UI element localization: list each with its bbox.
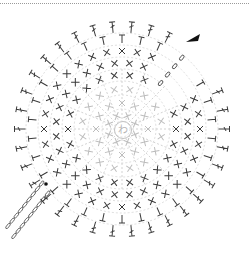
stitch-sc <box>56 103 64 111</box>
chain-loop-stitch <box>19 222 25 229</box>
chain-loop-stitch <box>36 201 42 208</box>
stitch-dc <box>71 31 81 44</box>
stitch-hdc <box>81 206 90 216</box>
stitch-sc <box>131 130 139 138</box>
join-dot-icon <box>44 182 48 186</box>
stitch-hdc <box>154 206 163 216</box>
stitch-sc <box>82 166 90 174</box>
stitch-hdc <box>137 212 145 221</box>
stitch-sc <box>66 140 73 147</box>
stitch-sc <box>53 133 60 140</box>
stitch-hdc <box>39 169 49 178</box>
stitch-dc <box>191 192 203 204</box>
stitch-dc <box>128 225 135 237</box>
stitch-sc <box>83 69 91 77</box>
stitch-dc <box>146 25 155 37</box>
stitch-sc <box>183 168 191 176</box>
stitch-sc <box>174 160 182 168</box>
stitch-sc <box>134 202 141 209</box>
stitch-hdc <box>203 97 212 105</box>
stitch-sc <box>173 180 181 188</box>
stitch-sc <box>111 179 118 186</box>
stitch-sc <box>140 158 148 166</box>
stitch-sc <box>103 49 110 56</box>
stitch-hdc <box>32 153 41 161</box>
stitch-sc <box>72 96 80 104</box>
stitch-sc <box>46 95 54 103</box>
stitch-hdc <box>195 79 205 88</box>
stitch-sc <box>153 166 161 174</box>
chain-loop-stitch <box>11 233 17 240</box>
stitch-dc <box>21 87 33 97</box>
magic-ring-symbol: わ <box>114 121 132 139</box>
stitch-dc <box>162 214 172 227</box>
stitch-dc <box>16 106 28 114</box>
stitch-sc <box>72 154 80 162</box>
stitch-hdc <box>64 51 74 61</box>
stitch-sc <box>180 103 188 111</box>
stitch-sc <box>96 174 104 182</box>
stitch-dc <box>21 161 33 171</box>
stitch-hdc <box>64 197 74 207</box>
stitch-hdc <box>28 116 37 123</box>
stitch-sc <box>195 110 202 117</box>
stitch-hdc <box>207 116 216 123</box>
chain-stitch <box>179 54 185 61</box>
stitch-dc <box>41 54 53 66</box>
stitch-sc <box>163 154 171 162</box>
chain-loop-stitch <box>18 207 24 214</box>
stitch-hdc <box>28 135 37 142</box>
stitch-hdc <box>154 42 163 52</box>
stitch-sc <box>105 120 113 128</box>
stitch-sc <box>197 126 203 132</box>
stitch-sc <box>184 133 191 140</box>
stitch-sc <box>66 110 73 117</box>
stitch-dc <box>15 126 26 132</box>
stitch-sc <box>131 120 139 128</box>
stitch-dc <box>216 144 228 152</box>
stitch-hdc <box>203 153 212 161</box>
stitch-sc <box>190 155 198 163</box>
start-arrow-icon <box>186 34 200 42</box>
stitch-sc <box>111 72 118 79</box>
stitch-sc <box>53 82 61 90</box>
chain-loop-stitch <box>26 196 32 203</box>
stitch-sc <box>140 76 148 84</box>
stitch-dc <box>16 144 28 152</box>
chain-loop-stitch <box>15 227 21 234</box>
stitch-sc <box>71 171 79 179</box>
stitch-sc <box>195 141 202 148</box>
stitch-sc <box>79 133 86 140</box>
stitch-sc <box>56 147 64 155</box>
stitch-dc <box>146 221 155 233</box>
stitch-sc <box>184 118 191 125</box>
stitch-sc <box>75 190 83 198</box>
chain-loop-stitch <box>45 190 51 197</box>
stitch-hdc <box>119 215 125 223</box>
stitch-sc <box>153 181 161 189</box>
stitch-sc <box>111 86 118 93</box>
stitch-sc <box>79 118 86 125</box>
stitch-sc <box>126 60 133 67</box>
stitch-sc <box>96 92 104 100</box>
stitch-sc <box>126 72 133 79</box>
stitch-sc <box>119 204 125 210</box>
stitch-sc <box>96 76 104 84</box>
stitch-dc <box>211 161 223 171</box>
stitch-sc <box>42 141 49 148</box>
stitch-sc <box>41 126 47 132</box>
stitch-sc <box>119 48 125 54</box>
stitch-sc <box>123 138 131 146</box>
stitch-sc <box>96 158 104 166</box>
stitch-sc <box>111 191 118 198</box>
stitch-dc <box>162 31 172 44</box>
chain-loop-stitch <box>30 191 36 198</box>
stitch-sc <box>53 168 61 176</box>
stitch-sc <box>158 133 165 140</box>
chain-loop-stitch <box>28 212 34 219</box>
stitch-sc <box>140 92 148 100</box>
chain-loop-stitch <box>32 206 38 213</box>
stitch-sc <box>62 90 70 98</box>
stitch-sc <box>105 130 113 138</box>
stitch-sc <box>170 140 177 147</box>
